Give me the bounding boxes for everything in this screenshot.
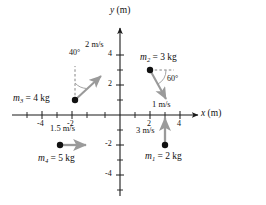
m2-velocity-arrow	[150, 70, 166, 99]
y-tick--4: -4	[105, 170, 112, 178]
body-m3	[72, 66, 101, 103]
m4-mass-label: m4 = 5 kg	[38, 154, 75, 164]
m2-mass-label: m2 = 3 kg	[140, 53, 177, 63]
m2-angle-arc	[158, 70, 166, 84]
m2-angle-label: 60°	[167, 75, 178, 83]
body-m4	[57, 142, 86, 148]
x-tick--4: -4	[37, 120, 44, 128]
m4-speed-label: 1.5 m/s	[50, 124, 75, 133]
m3-dot	[72, 97, 78, 103]
m1-mass-label: m1 = 2 kg	[145, 152, 182, 162]
y-tick--2: -2	[105, 140, 112, 148]
m1-speed-label: 3 m/s	[136, 126, 155, 135]
body-m1	[162, 118, 168, 148]
m3-speed-label: 2 m/s	[85, 40, 104, 49]
x-axis-label: x (m)	[201, 109, 221, 119]
m1-dot	[162, 142, 168, 148]
x-tick-4: 4	[177, 120, 181, 128]
y-axis-label: y (m)	[110, 6, 130, 16]
y-tick-4: 4	[108, 50, 112, 58]
m3-angle-arc	[75, 83, 87, 89]
y-axis	[116, 28, 124, 196]
m4-dot	[57, 142, 63, 148]
m2-speed-label: 1 m/s	[152, 100, 171, 109]
m2-dot	[147, 67, 153, 73]
m3-mass-label: m3 = 4 kg	[13, 94, 50, 104]
x-axis	[12, 111, 198, 119]
diagram-canvas: x (m) y (m) -4 -2 2 4 4 2 -2 -4 m3 = 4 k…	[0, 0, 266, 205]
m3-angle-label: 40°	[69, 49, 80, 57]
y-tick-2: 2	[108, 80, 112, 88]
m3-velocity-arrow	[75, 76, 101, 100]
